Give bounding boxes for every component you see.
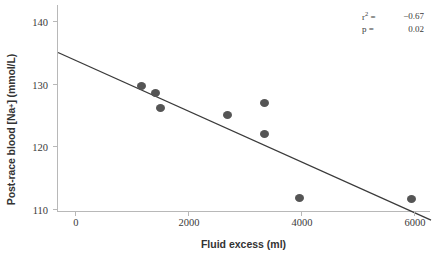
- x-axis-tick: 2000: [188, 211, 189, 216]
- y-axis-tick: 140: [53, 21, 58, 22]
- x-axis-tick: 0: [75, 211, 76, 216]
- y-axis-title-superscript: +: [7, 104, 16, 108]
- p-value-row: p = 0.02: [362, 23, 424, 35]
- y-axis-title-tail: ] (mmol/L): [5, 54, 17, 104]
- p-value-value: 0.02: [390, 23, 424, 35]
- r-squared-label-group: r2 =: [362, 10, 390, 23]
- y-axis-tick: 110: [53, 209, 58, 210]
- statistics-annotation: r2 = −0.67 p = 0.02: [362, 10, 424, 35]
- y-axis-tick: 130: [53, 84, 58, 85]
- x-axis-tick-label: 6000: [405, 217, 426, 228]
- r-squared-equals: =: [371, 12, 376, 22]
- plot-inner: 110120130140 0200040006000: [58, 5, 430, 211]
- y-axis-tick: 120: [53, 146, 58, 147]
- x-axis-tick-label: 2000: [178, 217, 199, 228]
- r-squared-superscript: 2: [365, 10, 368, 17]
- plot-area: 110120130140 0200040006000 r2 = −0.67 p …: [57, 5, 430, 212]
- r-squared-value: −0.67: [390, 10, 424, 23]
- x-axis-title: Fluid excess (ml): [57, 238, 430, 250]
- regression-line: [58, 5, 431, 212]
- r-squared-row: r2 = −0.67: [362, 10, 424, 23]
- regression-line-segment: [58, 53, 431, 221]
- y-axis-tick-label: 110: [33, 204, 48, 215]
- data-point: [151, 89, 160, 97]
- scatter-plot-figure: Post-race blood [Na+] (mmol/L) 110120130…: [0, 0, 438, 259]
- y-axis-tick-label: 130: [32, 79, 48, 90]
- x-axis-tick-label: 0: [73, 217, 78, 228]
- p-value-label-group: p =: [362, 23, 390, 35]
- data-point: [156, 104, 165, 112]
- x-axis-tick: 6000: [414, 211, 415, 216]
- y-axis-tick-label: 120: [32, 142, 48, 153]
- x-axis-tick: 4000: [301, 211, 302, 216]
- y-axis-title: Post-race blood [Na+] (mmol/L): [0, 0, 22, 259]
- data-point: [260, 99, 269, 107]
- y-axis-title-main: Post-race blood [Na: [5, 108, 17, 205]
- p-value-label: p: [362, 24, 367, 34]
- y-axis-tick-label: 140: [32, 17, 48, 28]
- p-value-equals: =: [369, 24, 374, 34]
- x-axis-tick-label: 4000: [292, 217, 313, 228]
